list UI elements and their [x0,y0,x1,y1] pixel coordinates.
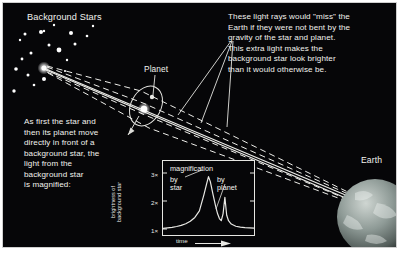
chart-x-axis-label: time [176,237,188,244]
planet-label-leader [153,75,155,95]
chart-title: magnification [170,165,213,173]
light-curve-chart: brightness of background star 3× 2× 1× [116,158,261,246]
lensing-star-body [141,106,147,112]
earth-globe [337,179,397,248]
time-arrow-icon [195,240,231,247]
planet-body [150,95,154,99]
annotation-magnified-note: As first the star and then its planet mo… [24,117,99,191]
microlensing-figure: Background Stars Planet Earth These ligh… [0,0,403,259]
annotation-light-rays-note: These light rays would "miss" the Earth … [228,12,350,75]
chart-annotation-by-planet: by planet [217,176,237,192]
label-earth: Earth [361,155,382,165]
label-background-stars: Background Stars [27,12,102,23]
chart-ytick-1: 1× [138,227,158,234]
chart-ytick-2: 2× [138,199,158,206]
background-star-field [12,24,94,93]
label-planet: Planet [144,65,168,75]
sky-panel: Background Stars Planet Earth These ligh… [2,2,397,248]
chart-ytick-3: 3× [138,171,158,178]
chart-annotation-by-star: by star [170,176,182,192]
rays-note-leaders [178,41,233,127]
chart-y-axis-label: brightness of background star [110,174,123,230]
chart-plot-area: magnification by star by planet [162,160,255,236]
